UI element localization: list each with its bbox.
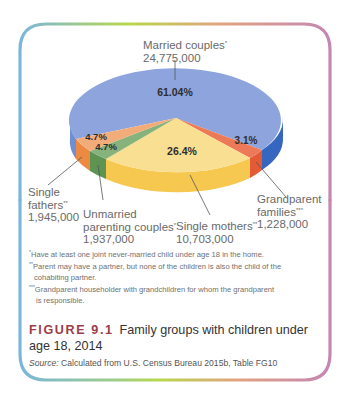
footnote-marker: ** — [63, 200, 68, 206]
label-single-fathers: Single fathers** 1,945,000 — [28, 186, 79, 224]
label-married-count: 24,775,000 — [143, 52, 227, 65]
label-grandparent: Grandparent families*** 1,228,000 — [257, 193, 322, 231]
label-unmarried-line1: Unmarried — [83, 208, 176, 221]
label-grandparent-count: 1,228,000 — [257, 218, 322, 231]
leader-grandparent — [256, 162, 286, 197]
footnote-text: Have at least one joint never-married ch… — [31, 250, 264, 259]
footnote-text: Parent may have a partner, but none of t… — [33, 262, 281, 271]
pct-married: 61.04% — [157, 86, 193, 98]
caption-text-line2: age 18, 2014 — [29, 338, 324, 354]
label-grandparent-line2: families — [257, 206, 296, 218]
leader-single-fathers — [48, 157, 82, 185]
label-married: Married couples* 24,775,000 — [143, 39, 227, 64]
pct-unmarried: 4.7% — [95, 141, 117, 152]
footnote-marker: * — [225, 40, 227, 46]
source-text: Calculated from U.S. Census Bureau 2015b… — [59, 358, 278, 368]
source-prefix: Source: — [29, 358, 59, 368]
footnote-3: ***Grandparent householder with grandchi… — [29, 284, 329, 296]
label-single-mothers-name: Single mothers — [176, 220, 253, 232]
label-single-fathers-line2: fathers — [28, 199, 63, 211]
label-single-fathers-line1: Single — [28, 186, 79, 199]
figure-number: FIGURE 9.1 — [29, 323, 114, 337]
figure-caption: FIGURE 9.1Family groups with children un… — [29, 322, 324, 354]
footnote-3-continuation: is responsible. — [29, 295, 329, 307]
label-single-fathers-count: 1,945,000 — [28, 211, 79, 224]
label-unmarried-count: 1,937,000 — [83, 233, 176, 246]
footnote-2: **Parent may have a partner, but none of… — [29, 261, 329, 273]
caption-text-line1: Family groups with children under — [120, 323, 308, 337]
footnote-text: Grandparent householder with grandchildr… — [35, 285, 274, 294]
pct-single-mothers: 26.4% — [167, 145, 197, 157]
label-grandparent-line1: Grandparent — [257, 193, 322, 206]
footnote-1: *Have at least one joint never-married c… — [29, 249, 329, 261]
source-note: Source: Calculated from U.S. Census Bure… — [29, 358, 277, 368]
footnote-2-continuation: cohabiting partner. — [29, 272, 329, 284]
label-single-mothers-count: 10,703,000 — [176, 233, 257, 246]
footnotes: *Have at least one joint never-married c… — [29, 249, 329, 307]
label-single-mothers: Single mothers** 10,703,000 — [176, 220, 257, 245]
pct-grandparent: 3.1% — [235, 135, 258, 146]
label-unmarried-line2: parenting couples — [83, 221, 174, 233]
label-unmarried: Unmarried parenting couples* 1,937,000 — [83, 208, 176, 246]
label-married-name: Married couples — [143, 39, 225, 51]
footnote-marker: *** — [296, 207, 303, 213]
